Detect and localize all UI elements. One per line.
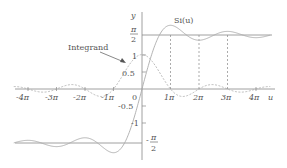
neg-pi-half-num: π xyxy=(150,133,157,142)
xtick-neg-1pi: -1π xyxy=(101,93,115,102)
integrand-label: Integrand xyxy=(68,43,108,52)
u-axis-label: u xyxy=(268,93,273,102)
ytick-0.5: 0.5 xyxy=(122,69,135,78)
xtick-neg-4pi: -4π xyxy=(16,93,30,102)
xtick-1pi: 1π xyxy=(164,93,175,102)
neg-pi-half-den: 2 xyxy=(151,144,156,153)
arrowhead-icon xyxy=(120,58,126,63)
si-plot: y Si(u) Integrand π 2 1 0.5 0 -0.5 -1 - … xyxy=(0,0,287,168)
xtick-neg-2pi: -2π xyxy=(73,93,87,102)
pi-half-den: 2 xyxy=(131,35,136,44)
ytick-1: 1 xyxy=(132,52,137,61)
xtick-0: 0 xyxy=(132,93,137,102)
xtick-2pi: 2π xyxy=(192,93,204,102)
y-axis-label: y xyxy=(130,11,136,20)
xtick-4pi: 4π xyxy=(248,93,260,102)
xtick-neg-3pi: -3π xyxy=(45,93,59,102)
ytick-neg-1: -1 xyxy=(131,119,139,128)
ytick-neg-0.5: -0.5 xyxy=(118,102,133,111)
pi-half-num: π xyxy=(130,25,137,34)
xtick-3pi: 3π xyxy=(221,93,232,102)
integrand-arrow xyxy=(100,52,124,62)
neg-pi-half-minus: - xyxy=(146,136,149,145)
si-label: Si(u) xyxy=(174,16,193,25)
